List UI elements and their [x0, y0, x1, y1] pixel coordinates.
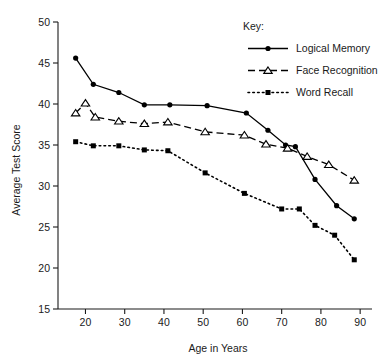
data-point [142, 102, 147, 107]
x-axis-tick-label: 40 [158, 316, 170, 328]
data-point [142, 147, 147, 152]
data-point [244, 110, 249, 115]
data-point [116, 90, 121, 95]
legend-label: Logical Memory [296, 42, 371, 54]
y-axis-tick-label: 40 [38, 98, 50, 110]
chart-container: 1520253035404550 2030405060708090 Key:Lo… [0, 0, 380, 364]
data-point [167, 102, 172, 107]
legend-item-face-recognition[interactable]: Face Recognition [248, 64, 378, 76]
y-axis-tick-label: 50 [38, 16, 50, 28]
data-point [242, 191, 247, 196]
data-point [350, 177, 358, 183]
data-point [91, 114, 99, 120]
series-line [76, 142, 355, 260]
series-line [76, 58, 355, 219]
y-axis-tick-label: 30 [38, 180, 50, 192]
legend-item-logical-memory[interactable]: Logical Memory [248, 42, 371, 54]
x-axis-tick-label: 60 [237, 316, 249, 328]
series-face-recognition [71, 100, 358, 184]
data-point [279, 206, 284, 211]
data-point [297, 206, 302, 211]
x-axis-tick-label: 90 [354, 316, 366, 328]
y-axis-tick-label: 45 [38, 57, 50, 69]
legend-marker-filled-circle [265, 46, 270, 51]
series-line [76, 103, 355, 180]
x-axis-tick-label: 20 [80, 316, 92, 328]
data-point [73, 55, 78, 60]
data-point [115, 118, 123, 124]
legend-marker-filled-square [266, 90, 271, 95]
y-axis-title: Average Test Score [10, 124, 22, 215]
y-axis-tick-label: 20 [38, 262, 50, 274]
data-point [303, 153, 311, 159]
x-axis-tick-label: 50 [197, 316, 209, 328]
data-point [165, 148, 170, 153]
x-axis-title: Age in Years [189, 342, 248, 354]
legend-label: Word Recall [296, 86, 353, 98]
data-point [73, 139, 78, 144]
data-point [332, 233, 337, 238]
y-axis-tick-label: 25 [38, 221, 50, 233]
data-point [116, 143, 121, 148]
y-axis-tick-label: 35 [38, 139, 50, 151]
x-axis: 2030405060708090 [58, 309, 372, 328]
data-point [265, 128, 270, 133]
legend-title: Key: [243, 20, 264, 32]
data-point [312, 177, 317, 182]
legend-item-word-recall[interactable]: Word Recall [248, 86, 353, 98]
y-axis-tick-label: 15 [38, 303, 50, 315]
data-point [352, 257, 357, 262]
legend-label: Face Recognition [296, 64, 378, 76]
data-point [262, 141, 270, 147]
data-point [352, 216, 357, 221]
data-point [203, 170, 208, 175]
data-point [293, 144, 298, 149]
data-point [334, 203, 339, 208]
data-point [325, 161, 333, 167]
data-point [81, 100, 89, 106]
x-axis-tick-label: 70 [276, 316, 288, 328]
data-point [91, 82, 96, 87]
data-point [205, 103, 210, 108]
series-word-recall [73, 139, 357, 262]
data-point [91, 143, 96, 148]
x-axis-tick-label: 80 [315, 316, 327, 328]
data-point [313, 223, 318, 228]
y-axis: 1520253035404550 [38, 16, 58, 315]
x-axis-tick-label: 30 [119, 316, 131, 328]
line-chart: 1520253035404550 2030405060708090 Key:Lo… [0, 0, 380, 364]
legend: Key:Logical MemoryFace RecognitionWord R… [243, 20, 378, 98]
series-logical-memory [73, 55, 357, 221]
